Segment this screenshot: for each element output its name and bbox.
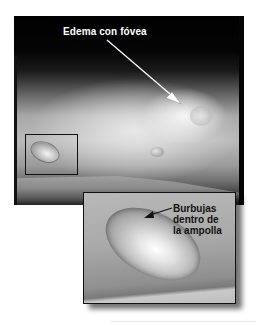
inset-photo: Burbujas dentro de la ampolla bbox=[83, 192, 236, 304]
bubbles-label: Burbujas dentro de la ampolla bbox=[173, 203, 235, 236]
divider bbox=[110, 321, 256, 322]
bubbles-label-line: dentro de bbox=[173, 214, 235, 225]
bubbles-label-line: la ampolla bbox=[173, 225, 235, 236]
arrow-icon bbox=[14, 16, 244, 205]
main-photo: Edema con fóvea bbox=[14, 16, 244, 205]
bubbles-label-line: Burbujas bbox=[173, 203, 235, 214]
